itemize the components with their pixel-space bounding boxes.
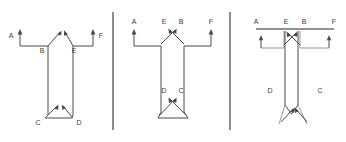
panel-2-arrow-F [209, 29, 214, 46]
free-body-diagram-figure: A B E F C D [0, 0, 346, 142]
panel-1-arrow-A [18, 29, 23, 46]
panel-2-label-E: E [162, 18, 167, 25]
panel-3-arrow-A [259, 35, 264, 48]
panel-1-left-diagram: A B E F C D [9, 29, 103, 126]
panel-1-label-E: E [72, 47, 77, 54]
panel-1-arrow-B [48, 30, 61, 46]
panel-2-label-B: B [179, 18, 184, 25]
panel-3-label-F: F [332, 18, 336, 25]
panel-1-label-F: F [99, 32, 103, 39]
panel-2-label-F: F [209, 18, 213, 25]
panel-2-arrow-A [132, 29, 137, 46]
panel-3-label-E: E [284, 18, 289, 25]
panel-3-right-diagram: A E B F D C [254, 18, 336, 124]
panel-2-middle-diagram: A E B F D C [132, 18, 214, 118]
panel-1-label-D: D [76, 119, 81, 126]
panel-3-label-A: A [254, 18, 259, 25]
panel-2-member-outline [134, 46, 211, 118]
panel-3-label-B: B [302, 18, 307, 25]
panel-2-label-D: D [161, 87, 166, 94]
panel-1-arrow-F [91, 29, 96, 46]
panel-2-label-C: C [178, 87, 183, 94]
panel-1-label-C: C [35, 119, 40, 126]
panel-2-arrow-D [159, 97, 177, 116]
panel-3-arrow-E [284, 32, 297, 45]
panel-3-base-splay [279, 105, 307, 124]
panel-3-label-D: D [267, 87, 272, 94]
panel-1-arrow-E [64, 30, 73, 46]
diagram-canvas: A B E F C D [0, 0, 346, 142]
panel-3-label-C: C [317, 87, 322, 94]
panel-1-arrow-D [62, 104, 72, 117]
panel-1-label-A: A [9, 32, 14, 39]
panel-3-arrow-F [327, 35, 332, 48]
panel-1-label-B: B [40, 47, 45, 54]
panel-3-web-outline [285, 31, 298, 114]
panel-2-label-A: A [132, 18, 137, 25]
panel-3-arrow-C [295, 107, 307, 122]
